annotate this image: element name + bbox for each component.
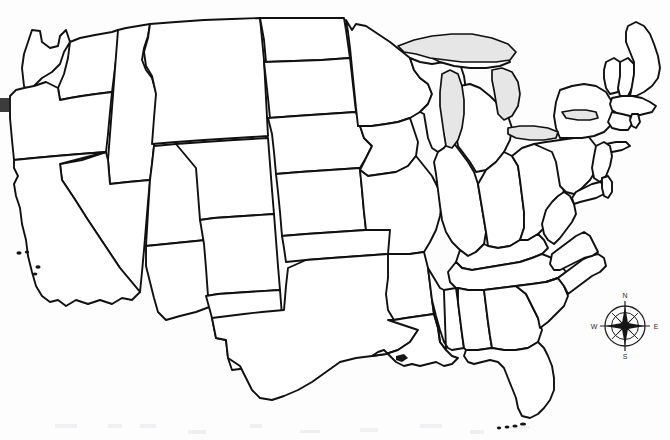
left-edge-smudge <box>0 98 9 112</box>
lake-ontario <box>562 110 598 120</box>
state-AR <box>386 252 434 320</box>
state-CT <box>608 112 632 130</box>
florida-key-4 <box>497 427 501 430</box>
compass-label-west: W <box>591 323 598 330</box>
state-SD <box>264 58 356 118</box>
channel-island-4 <box>33 272 38 275</box>
channel-island-3 <box>35 265 40 269</box>
state-ND <box>260 18 350 62</box>
state-DE <box>602 176 612 198</box>
state-MT <box>144 18 268 144</box>
state-RI <box>630 114 640 128</box>
compass-label-south: S <box>623 353 628 360</box>
state-CO <box>200 214 280 296</box>
state-NE <box>268 112 372 174</box>
compass-point-east <box>625 323 645 329</box>
compass-point-north <box>622 306 628 326</box>
compass-label-east: E <box>654 323 659 330</box>
state-KS <box>276 168 366 236</box>
channel-island-2 <box>25 250 29 253</box>
florida-key-2 <box>512 424 517 427</box>
us-outline-map-page: N E S W <box>0 0 670 440</box>
florida-key-3 <box>505 426 510 429</box>
channel-island-1 <box>16 251 21 255</box>
state-AZ <box>146 240 212 320</box>
compass-point-south <box>622 326 628 346</box>
lake-erie <box>508 126 558 140</box>
compass-label-north: N <box>622 292 627 299</box>
florida-key-1 <box>520 422 526 425</box>
us-map-svg <box>0 0 670 440</box>
compass-point-west <box>605 323 625 329</box>
compass-rose: N E S W <box>588 288 662 362</box>
